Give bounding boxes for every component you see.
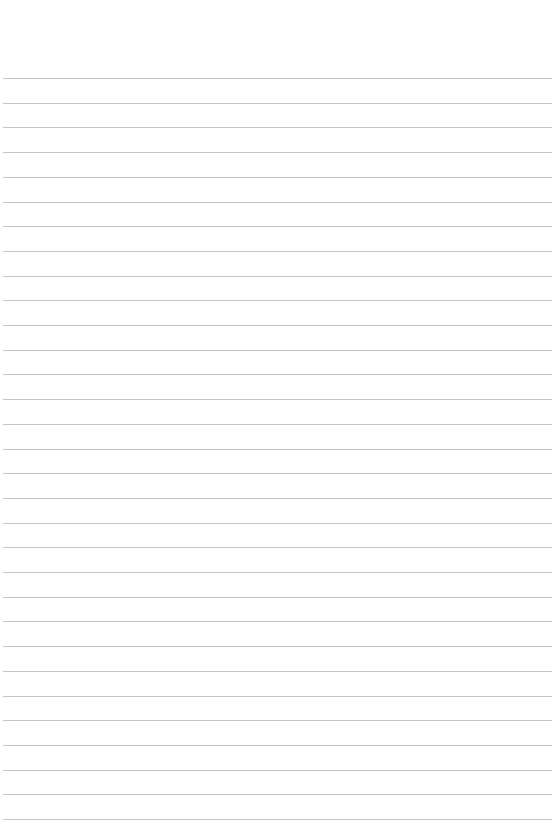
ruled-line xyxy=(3,424,552,425)
ruled-line xyxy=(3,251,552,252)
ruled-line xyxy=(3,498,552,499)
ruled-line xyxy=(3,300,552,301)
ruled-line xyxy=(3,572,552,573)
ruled-line xyxy=(3,152,552,153)
ruled-line xyxy=(3,794,552,795)
lined-paper-page xyxy=(0,0,555,834)
ruled-line xyxy=(3,202,552,203)
ruled-line xyxy=(3,745,552,746)
ruled-line xyxy=(3,127,552,128)
ruled-line xyxy=(3,276,552,277)
ruled-line xyxy=(3,374,552,375)
ruled-line xyxy=(3,819,552,820)
ruled-line xyxy=(3,621,552,622)
ruled-line xyxy=(3,350,552,351)
ruled-line xyxy=(3,78,552,79)
ruled-line xyxy=(3,597,552,598)
ruled-line xyxy=(3,646,552,647)
ruled-line xyxy=(3,473,552,474)
ruled-line xyxy=(3,720,552,721)
ruled-line xyxy=(3,547,552,548)
ruled-line xyxy=(3,177,552,178)
ruled-line xyxy=(3,103,552,104)
ruled-line xyxy=(3,671,552,672)
ruled-line xyxy=(3,696,552,697)
ruled-line xyxy=(3,449,552,450)
ruled-line xyxy=(3,325,552,326)
ruled-line xyxy=(3,399,552,400)
ruled-line xyxy=(3,523,552,524)
ruled-line xyxy=(3,226,552,227)
ruled-line xyxy=(3,770,552,771)
